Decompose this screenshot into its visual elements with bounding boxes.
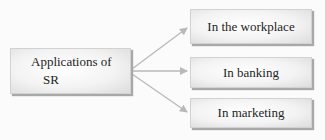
branch-node-marketing: In marketing — [190, 98, 312, 128]
branch-label: In banking — [223, 65, 279, 81]
branch-node-banking: In banking — [190, 57, 312, 88]
root-node: Applications of SR — [10, 48, 131, 94]
root-node-line1: Applications of — [31, 53, 112, 71]
arrow-to-workplace — [132, 28, 187, 69]
branch-label: In marketing — [218, 105, 285, 121]
root-node-line2: SR — [31, 71, 112, 89]
arrow-to-marketing — [132, 74, 187, 112]
branch-node-workplace: In the workplace — [190, 9, 312, 44]
branch-label: In the workplace — [207, 19, 294, 35]
